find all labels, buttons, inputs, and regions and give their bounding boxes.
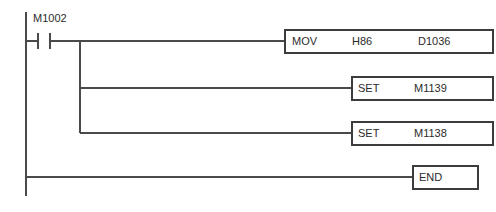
end-mnemonic-text: END	[419, 171, 442, 183]
ladder-diagram-svg: M1002 MOV H86 D1036 SET M1139 SET M1138 …	[0, 0, 496, 212]
mov-mnemonic-text: MOV	[292, 35, 318, 47]
mov-operand1-text: H86	[352, 35, 372, 47]
set2-operand1-text: M1138	[414, 127, 447, 139]
set2-mnemonic-text: SET	[358, 127, 380, 139]
set1-operand1-text: M1139	[414, 82, 447, 94]
mov-operand2-text: D1036	[418, 35, 450, 47]
contact-m1002-label: M1002	[33, 12, 67, 24]
ladder-diagram-canvas: M1002 MOV H86 D1036 SET M1139 SET M1138 …	[0, 0, 496, 212]
set1-mnemonic-text: SET	[358, 82, 380, 94]
